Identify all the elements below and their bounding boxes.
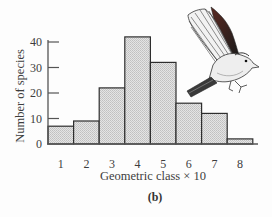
y-tick-label: 0 [36,137,42,152]
histogram-chart [0,0,272,217]
y-tick-marks [48,42,59,119]
x-tick-label: 7 [211,157,217,172]
y-tick-label: 20 [30,86,42,101]
bar-4 [125,37,151,144]
bar-7 [202,113,228,144]
bar-2 [74,121,100,144]
x-tick-label: 4 [135,157,141,172]
x-tick-label: 1 [58,157,64,172]
panel-label: (b) [148,190,163,205]
bar-5 [150,62,176,144]
y-axis-label: Number of species [13,49,28,143]
x-tick-label: 3 [109,157,115,172]
bar-6 [176,103,202,144]
y-tick-label: 30 [30,60,42,75]
y-tick-label: 40 [30,35,42,50]
bird-illustration-icon [187,7,259,97]
bar-8 [227,139,253,144]
x-tick-label: 2 [83,157,89,172]
x-tick-label: 6 [186,157,192,172]
y-tick-label: 10 [30,111,42,126]
bar-3 [99,88,125,144]
x-tick-label: 5 [160,157,166,172]
x-tick-label: 8 [237,157,243,172]
bar-1 [48,126,74,144]
